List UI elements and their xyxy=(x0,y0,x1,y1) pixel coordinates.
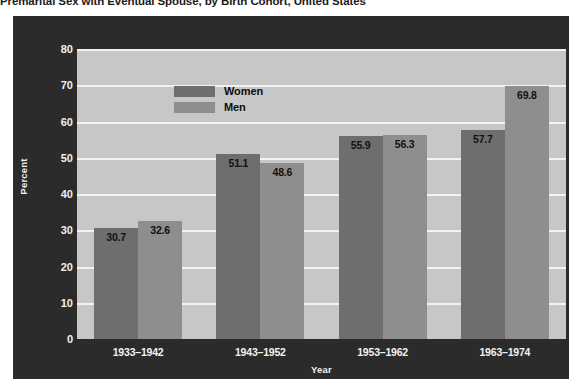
chart-frame: 80 70 60 50 40 30 20 10 0 Percent 30.7 3… xyxy=(13,16,569,379)
x-axis-title: Year xyxy=(77,364,566,375)
y-axis-tick: 10 xyxy=(27,297,73,308)
bar-value-label: 55.9 xyxy=(351,139,371,151)
y-axis-tick: 30 xyxy=(27,225,73,236)
plot-area: 30.7 32.6 51.1 48.6 55.9 56.3 xyxy=(77,49,566,339)
bar-women[interactable]: 57.7 xyxy=(461,130,505,339)
x-axis-tick: 1943–1952 xyxy=(199,346,321,362)
legend-swatch-men-icon xyxy=(174,102,215,113)
bar-men[interactable]: 48.6 xyxy=(260,163,304,339)
bar-value-label: 48.6 xyxy=(273,166,293,178)
y-axis-tick: 40 xyxy=(27,189,73,200)
y-axis-tick: 50 xyxy=(27,152,73,163)
y-axis-tick: 80 xyxy=(27,44,73,55)
bar-group: 55.9 56.3 xyxy=(322,49,444,339)
y-axis-tick: 0 xyxy=(27,334,73,345)
y-axis-tick-labels: 80 70 60 50 40 30 20 10 0 xyxy=(23,49,73,339)
bars-layer: 30.7 32.6 51.1 48.6 55.9 56.3 xyxy=(77,49,566,339)
bar-women[interactable]: 51.1 xyxy=(216,154,260,339)
chart-title: Premarital Sex with Eventual Spouse, by … xyxy=(0,0,582,11)
y-axis-tick: 70 xyxy=(27,80,73,91)
x-axis-tick-labels: 1933–1942 1943–1952 1953–1962 1963–1974 xyxy=(77,346,566,362)
chart-legend: Women Men xyxy=(174,85,263,117)
y-axis-title: Percent xyxy=(18,147,29,207)
legend-item-women[interactable]: Women xyxy=(174,85,263,97)
bar-women[interactable]: 30.7 xyxy=(94,228,138,339)
bar-men[interactable]: 32.6 xyxy=(138,221,182,339)
bar-value-label: 30.7 xyxy=(106,231,126,243)
legend-label-women: Women xyxy=(224,85,263,97)
y-axis-tick: 60 xyxy=(27,116,73,127)
x-axis-tick: 1953–1962 xyxy=(322,346,444,362)
x-axis-tick: 1933–1942 xyxy=(77,346,199,362)
legend-swatch-women-icon xyxy=(174,86,215,97)
bar-value-label: 57.7 xyxy=(473,133,493,145)
bar-value-label: 69.8 xyxy=(517,89,537,101)
bar-men[interactable]: 69.8 xyxy=(505,86,549,339)
legend-item-men[interactable]: Men xyxy=(174,101,263,113)
bar-value-label: 56.3 xyxy=(395,138,415,150)
bar-women[interactable]: 55.9 xyxy=(339,136,383,339)
bar-men[interactable]: 56.3 xyxy=(383,135,427,339)
bar-group: 57.7 69.8 xyxy=(444,49,566,339)
y-axis-tick: 20 xyxy=(27,261,73,272)
bar-value-label: 51.1 xyxy=(229,157,249,169)
legend-label-men: Men xyxy=(224,101,246,113)
bar-value-label: 32.6 xyxy=(150,224,170,236)
x-axis-tick: 1963–1974 xyxy=(444,346,566,362)
